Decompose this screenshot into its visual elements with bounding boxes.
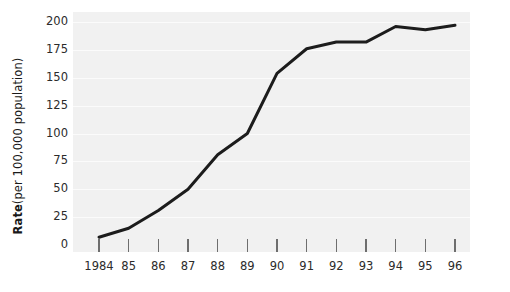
y-axis-tick-label: 200 (30, 16, 68, 28)
y-axis-title-bold: Rate (11, 204, 25, 234)
x-axis-tick-label: 95 (418, 261, 433, 273)
x-axis-tick-label: 86 (151, 261, 166, 273)
y-axis-tick-label: 25 (30, 211, 68, 223)
y-axis-title-rest: (per 100,000 population) (11, 58, 25, 205)
plot-area (73, 12, 470, 252)
line-chart: Rate (per 100,000 population) 0255075100… (0, 0, 510, 292)
x-axis-tick-label: 88 (210, 261, 225, 273)
y-axis-tick-label: 50 (30, 184, 68, 196)
x-axis-tick-label: 96 (448, 261, 463, 273)
x-axis-tick-label: 87 (181, 261, 196, 273)
x-axis-tick-label: 93 (359, 261, 374, 273)
x-axis-tick-label: 90 (270, 261, 285, 273)
x-axis-tick-label: 1984 (84, 261, 113, 273)
x-axis-tick-label: 85 (121, 261, 136, 273)
y-axis-tick-labels: 0255075100125150175200 (30, 0, 68, 292)
x-axis-tick-label: 94 (388, 261, 403, 273)
y-axis-tick-label: 150 (30, 72, 68, 84)
data-line-series-rate (99, 25, 455, 237)
y-axis-tick-label: 175 (30, 44, 68, 56)
y-axis-tick-label: 125 (30, 100, 68, 112)
y-axis-tick-label: 100 (30, 128, 68, 140)
x-axis-tick-label: 91 (299, 261, 314, 273)
y-axis-tick-label: 0 (30, 239, 68, 251)
data-line-svg (73, 12, 470, 252)
x-axis-tick-label: 89 (240, 261, 255, 273)
y-axis-tick-label: 75 (30, 156, 68, 168)
x-axis-tick-label: 92 (329, 261, 344, 273)
